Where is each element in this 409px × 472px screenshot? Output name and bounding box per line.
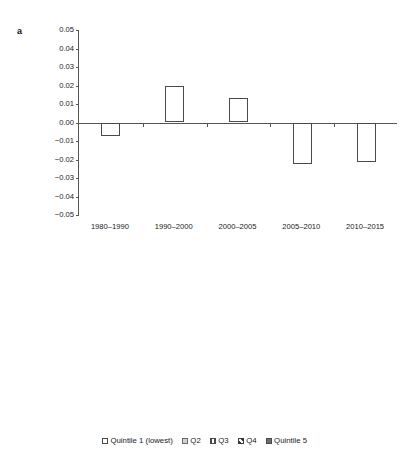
x-axis-tick	[334, 123, 335, 127]
panel-a-plot-area	[78, 30, 397, 215]
y-axis-tick	[76, 178, 79, 179]
y-axis-tick-label: 0.02	[59, 82, 74, 90]
y-axis-tick-label: −0.05	[55, 211, 74, 219]
y-axis-tick-label: 0.01	[59, 100, 74, 108]
bar-1990–2000	[165, 86, 184, 122]
white-open-square-icon	[102, 438, 108, 444]
bar-2000–2005	[229, 98, 248, 123]
x-axis-tick-label: 2005–2010	[282, 222, 320, 231]
x-axis-tick	[207, 123, 208, 127]
y-axis-tick	[76, 141, 79, 142]
y-axis-tick	[76, 215, 79, 216]
dark-gray-square-icon	[266, 438, 272, 444]
y-axis-tick-label: −0.02	[55, 156, 74, 164]
y-axis-tick-label: −0.01	[55, 137, 74, 145]
y-axis-tick-label: 0.03	[59, 63, 74, 71]
legend-label: Quintile 1 (lowest)	[110, 436, 172, 445]
y-axis-tick	[76, 86, 79, 87]
panel-a-y-axis-labels: 0.050.040.030.020.010.00−0.01−0.02−0.03−…	[34, 30, 74, 215]
x-axis-tick-label: 2010–2015	[346, 222, 384, 231]
y-axis-tick-label: −0.04	[55, 193, 74, 201]
chart-legend: Quintile 1 (lowest)Q2Q3Q4Quintile 5	[0, 436, 409, 445]
panel-a-label: a	[17, 26, 22, 36]
legend-label: Q3	[218, 436, 228, 445]
legend-item: Q2	[182, 436, 201, 445]
light-gray-square-icon	[182, 438, 188, 444]
diagonal-hatch-square-icon	[238, 438, 244, 444]
y-axis-tick	[76, 104, 79, 105]
y-axis-tick-label: −0.03	[55, 174, 74, 182]
bar-2005–2010	[293, 123, 312, 165]
x-axis-tick-label: 1980–1990	[91, 222, 129, 231]
legend-label: Quintile 5	[274, 436, 307, 445]
legend-item: Q3	[210, 436, 229, 445]
x-axis-tick	[270, 123, 271, 127]
y-axis-tick-label: 0.04	[59, 45, 74, 53]
figure-container: a 0.050.040.030.020.010.00−0.01−0.02−0.0…	[0, 0, 409, 472]
y-axis-tick	[76, 67, 79, 68]
y-axis-tick	[76, 197, 79, 198]
y-axis-tick	[76, 49, 79, 50]
legend-item: Quintile 1 (lowest)	[102, 436, 173, 445]
x-axis-tick	[143, 123, 144, 127]
y-axis-tick-label: 0.05	[59, 26, 74, 34]
legend-label: Q4	[246, 436, 256, 445]
x-axis-tick-label: 1990–2000	[155, 222, 193, 231]
legend-label: Q2	[190, 436, 200, 445]
legend-item: Quintile 5	[266, 436, 307, 445]
legend-item: Q4	[238, 436, 257, 445]
bar-2010–2015	[357, 123, 376, 163]
y-axis-tick	[76, 30, 79, 31]
zero-baseline	[79, 123, 397, 124]
x-axis-tick-label: 2000–2005	[218, 222, 256, 231]
vertical-stripe-square-icon	[210, 438, 216, 444]
panel-a: a 0.050.040.030.020.010.00−0.01−0.02−0.0…	[0, 0, 409, 236]
y-axis-tick-label: 0.00	[59, 119, 74, 127]
bar-1980–1990	[101, 123, 120, 137]
y-axis-tick	[76, 160, 79, 161]
